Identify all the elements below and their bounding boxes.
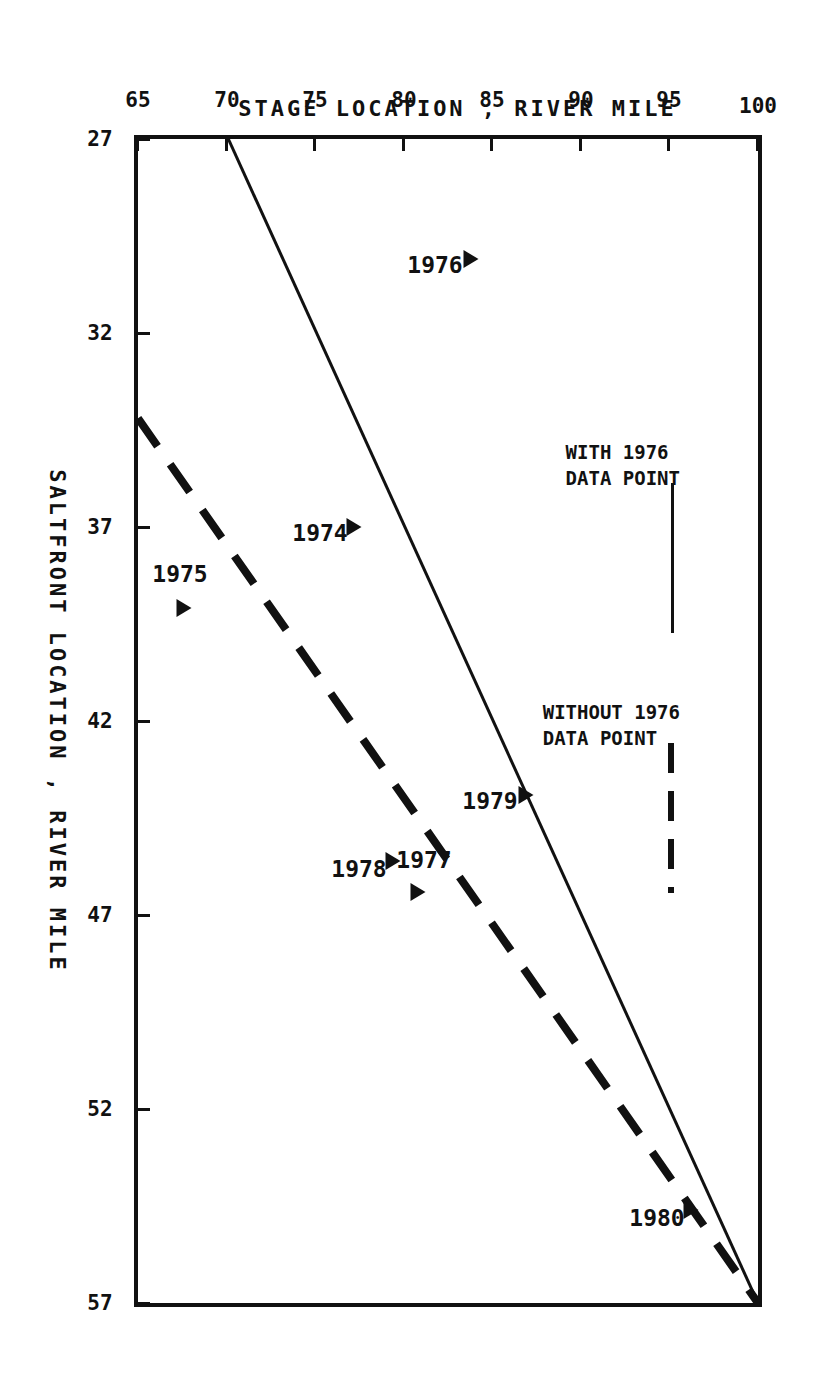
plot-frame: 27323742475257 65707580859095100 1974197…: [134, 135, 762, 1307]
x-tick-label: 57: [87, 1291, 112, 1315]
data-point-marker: [518, 786, 533, 804]
y-tick: [402, 138, 405, 151]
rotated-chart-wrapper: 27323742475257 65707580859095100 1974197…: [36, 49, 788, 1339]
y-axis-title: STAGE LOCATION , RIVER MILE: [144, 96, 772, 121]
data-point-marker: [464, 250, 479, 268]
legend-label-2: WITHOUT 1976DATA POINT: [543, 699, 680, 751]
data-point-marker: [347, 518, 362, 536]
figure-page: 27323742475257 65707580859095100 1974197…: [0, 0, 824, 1388]
data-point-label: 1975: [152, 561, 207, 587]
y-tick: [313, 138, 316, 151]
x-tick-label: 47: [87, 903, 112, 927]
plot-area: 27323742475257 65707580859095100 1974197…: [138, 139, 758, 1303]
data-point-marker: [410, 883, 425, 901]
legend-swatch-dashed: [668, 743, 674, 893]
data-point-label: 1974: [292, 520, 347, 546]
x-tick: [137, 1302, 150, 1305]
x-axis-title: SALTFRONT LOCATION , RIVER MILE: [45, 135, 70, 1307]
x-tick-label: 42: [87, 709, 112, 733]
x-tick-label: 52: [87, 1097, 112, 1121]
x-tick: [137, 720, 150, 723]
y-tick: [579, 138, 582, 151]
data-point-label: 1978: [331, 856, 386, 882]
data-point-label: 1976: [407, 252, 462, 278]
data-point-label: 1980: [629, 1205, 684, 1231]
x-tick-label: 32: [87, 321, 112, 345]
x-tick: [137, 332, 150, 335]
data-point-marker: [683, 1201, 698, 1219]
x-tick: [137, 526, 150, 529]
x-tick-label: 27: [87, 127, 112, 151]
y-tick: [136, 138, 139, 151]
data-point-label: 1977: [396, 847, 451, 873]
legend-swatch-solid: [671, 483, 674, 633]
data-point-marker: [386, 852, 401, 870]
legend-label-line2: DATA POINT: [543, 727, 657, 749]
y-tick: [667, 138, 670, 151]
x-tick: [137, 1108, 150, 1111]
y-tick: [756, 138, 759, 151]
y-tick: [225, 138, 228, 151]
legend-label-1: WITH 1976DATA POINT: [566, 439, 680, 491]
legend-label-line2: DATA POINT: [566, 467, 680, 489]
y-tick: [490, 138, 493, 151]
data-point-marker: [177, 599, 192, 617]
legend-label-line1: WITHOUT 1976: [543, 701, 680, 723]
x-tick: [137, 914, 150, 917]
x-tick-label: 37: [87, 515, 112, 539]
legend-label-line1: WITH 1976: [566, 441, 669, 463]
data-point-label: 1979: [462, 788, 517, 814]
